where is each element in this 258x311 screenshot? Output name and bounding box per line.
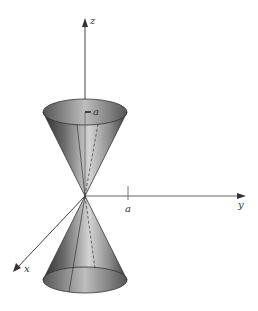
- z-axis-label: z: [89, 15, 96, 26]
- lower-cone: [43, 196, 127, 293]
- upper-radius-label: a: [93, 106, 99, 117]
- x-axis-label: x: [24, 263, 30, 274]
- upper-cone: a: [43, 99, 127, 196]
- y-tick-a-label: a: [125, 203, 131, 214]
- double-cone-diagram: a a z y x: [0, 0, 258, 311]
- y-axis-label: y: [237, 199, 244, 210]
- y-axis: a: [85, 186, 246, 214]
